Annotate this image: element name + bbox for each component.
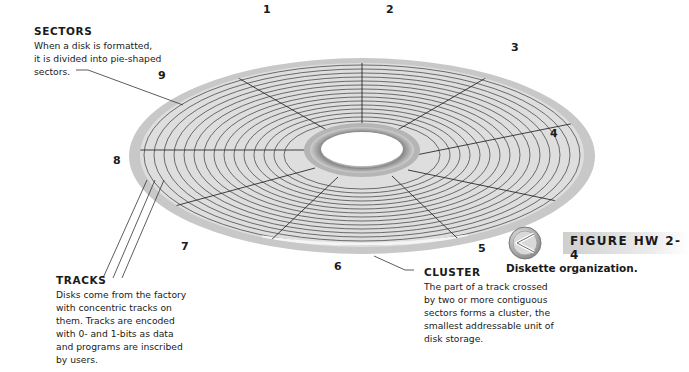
sectors-body: When a disk is formatted, it is divided … (34, 39, 194, 78)
sector-number-7: 7 (181, 240, 189, 253)
sector-number-6: 6 (334, 260, 342, 273)
sectors-body-line: When a disk is formatted, (34, 39, 194, 52)
cluster-body-line: smallest addressable unit of (424, 319, 594, 332)
sectors-body-line: sectors. (34, 65, 194, 78)
figure-caption: Diskette organization. (506, 262, 638, 274)
tracks-body: Disks come from the factory with concent… (56, 288, 226, 366)
tracks-body-line: with concentric tracks on (56, 301, 226, 314)
cluster-body: The part of a track crossed by two or mo… (424, 280, 594, 345)
figure-label: FIGURE HW 2-4 (570, 234, 689, 262)
chevron-left-circle-icon (508, 226, 542, 260)
cluster-body-line: The part of a track crossed (424, 280, 594, 293)
cluster-callout: CLUSTER The part of a track crossed by t… (424, 266, 594, 345)
tracks-title: TRACKS (56, 274, 226, 286)
tracks-body-line: with 0- and 1-bits as data (56, 327, 226, 340)
sectors-title: SECTORS (34, 25, 194, 37)
sector-number-5: 5 (478, 242, 486, 255)
sector-number-4: 4 (550, 127, 558, 140)
tracks-leader-3 (122, 180, 164, 278)
cluster-body-line: sectors forms a cluster, the (424, 306, 594, 319)
sector-number-3: 3 (511, 41, 519, 54)
cluster-body-line: disk storage. (424, 332, 594, 345)
tracks-body-line: them. Tracks are encoded (56, 314, 226, 327)
sectors-callout: SECTORS When a disk is formatted, it is … (34, 25, 194, 78)
tracks-body-line: and programs are inscribed (56, 340, 226, 353)
tracks-body-line: by users. (56, 353, 226, 366)
tracks-callout: TRACKS Disks come from the factory with … (56, 274, 226, 366)
tracks-body-line: Disks come from the factory (56, 288, 226, 301)
cluster-body-line: by two or more contiguous (424, 293, 594, 306)
tracks-leader-1 (103, 180, 147, 278)
sector-number-8: 8 (113, 154, 121, 167)
sector-number-2: 2 (386, 3, 394, 16)
tracks-leader-2 (113, 180, 155, 278)
sectors-body-line: it is divided into pie-shaped (34, 52, 194, 65)
cluster-leader (374, 256, 414, 270)
sector-number-1: 1 (263, 3, 271, 16)
